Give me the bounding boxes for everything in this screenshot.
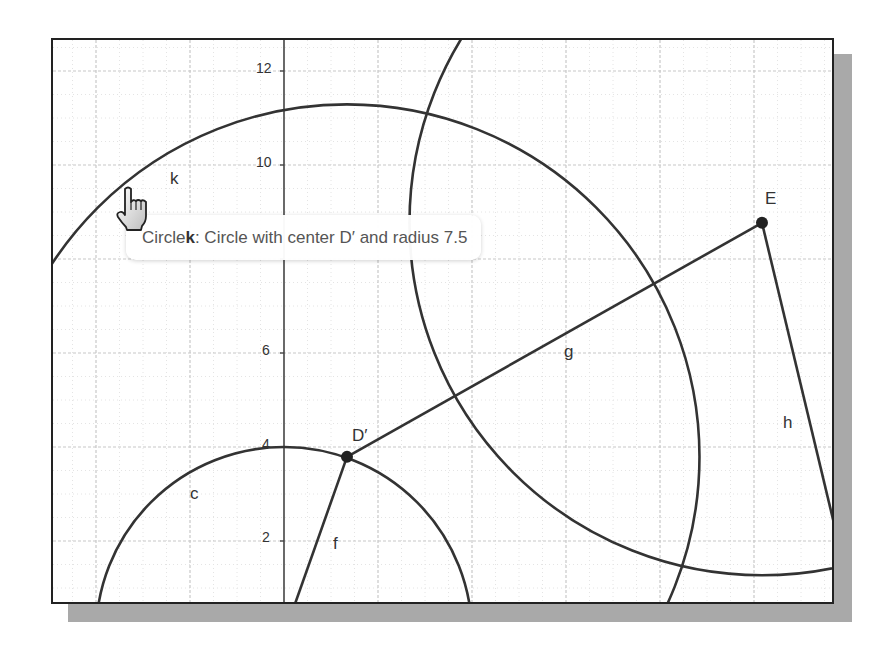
label-E[interactable]: E: [765, 189, 776, 209]
label-k[interactable]: k: [170, 169, 179, 189]
circle-k[interactable]: [53, 104, 699, 604]
y-tick-12: 12: [256, 60, 272, 76]
circle-centered-E[interactable]: [409, 40, 834, 575]
label-D-prime[interactable]: D′: [352, 426, 367, 446]
y-tick-4: 4: [262, 436, 270, 452]
label-f[interactable]: f: [333, 534, 338, 554]
graphics-view[interactable]: [51, 38, 834, 604]
object-tooltip: Circle k: Circle with center D′ and radi…: [126, 215, 481, 260]
segment-h[interactable]: [762, 223, 834, 604]
segment-f[interactable]: [284, 457, 347, 604]
tooltip-description: : Circle with center D′ and radius 7.5: [195, 228, 467, 248]
point-D-prime[interactable]: [341, 451, 353, 463]
label-h[interactable]: h: [783, 413, 792, 433]
y-tick-6: 6: [262, 342, 270, 358]
tooltip-object-name: k: [185, 228, 194, 248]
label-c[interactable]: c: [190, 484, 199, 504]
y-tick-10: 10: [256, 154, 272, 170]
geometry-canvas[interactable]: [53, 40, 834, 604]
y-tick-2: 2: [262, 529, 270, 545]
label-g[interactable]: g: [564, 342, 573, 362]
point-E[interactable]: [756, 217, 768, 229]
hand-pointer-icon: [116, 186, 152, 232]
